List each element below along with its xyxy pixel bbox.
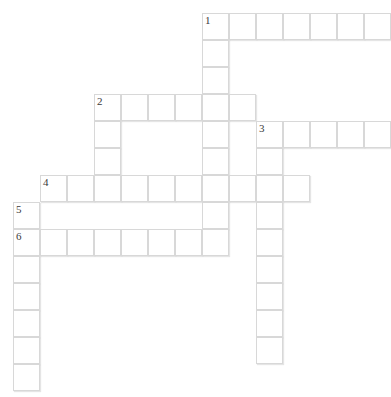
crossword-cell[interactable] (256, 202, 283, 229)
crossword-cell[interactable] (13, 364, 40, 391)
crossword-cell[interactable] (67, 175, 94, 202)
crossword-cell[interactable] (283, 175, 310, 202)
crossword-cell[interactable] (283, 13, 310, 40)
crossword-cell[interactable] (310, 13, 337, 40)
crossword-cell[interactable] (175, 94, 202, 121)
crossword-cell[interactable] (283, 121, 310, 148)
crossword-cell[interactable] (94, 121, 121, 148)
crossword-cell[interactable] (202, 229, 229, 256)
crossword-cell[interactable] (202, 202, 229, 229)
crossword-cell[interactable] (94, 175, 121, 202)
cell-number-5: 5 (16, 203, 22, 216)
crossword-cell[interactable]: 5 (13, 202, 40, 229)
crossword-cell[interactable] (229, 175, 256, 202)
crossword-cell[interactable] (67, 229, 94, 256)
crossword-cell[interactable] (13, 310, 40, 337)
crossword-cell[interactable] (202, 40, 229, 67)
crossword-cell[interactable] (202, 121, 229, 148)
crossword-cell[interactable] (175, 175, 202, 202)
crossword-cell[interactable] (229, 13, 256, 40)
crossword-cell[interactable] (13, 283, 40, 310)
cell-number-3: 3 (259, 122, 265, 135)
crossword-cell[interactable] (148, 94, 175, 121)
cell-number-4: 4 (43, 176, 49, 189)
crossword-cell[interactable] (256, 175, 283, 202)
crossword-cell[interactable] (256, 13, 283, 40)
crossword-cell[interactable] (337, 13, 364, 40)
crossword-cell[interactable] (13, 337, 40, 364)
crossword-cell[interactable] (94, 148, 121, 175)
crossword-cell[interactable] (229, 94, 256, 121)
cell-number-2: 2 (97, 95, 103, 108)
crossword-cell[interactable] (202, 175, 229, 202)
crossword-cell[interactable] (310, 121, 337, 148)
crossword-cell[interactable] (202, 67, 229, 94)
crossword-cell[interactable] (202, 94, 229, 121)
crossword-cell[interactable] (121, 175, 148, 202)
crossword-cell[interactable] (256, 310, 283, 337)
crossword-cell[interactable]: 6 (13, 229, 40, 256)
crossword-cell[interactable] (364, 13, 391, 40)
crossword-cell[interactable] (337, 121, 364, 148)
crossword-cell[interactable] (148, 229, 175, 256)
crossword-cell[interactable] (121, 229, 148, 256)
crossword-cell[interactable] (256, 283, 283, 310)
crossword-cell[interactable] (256, 148, 283, 175)
crossword-cell[interactable] (13, 256, 40, 283)
crossword-cell[interactable] (94, 229, 121, 256)
crossword-cell[interactable] (202, 148, 229, 175)
crossword-cell[interactable] (148, 175, 175, 202)
crossword-cell[interactable] (175, 229, 202, 256)
crossword-cell[interactable] (256, 256, 283, 283)
crossword-cell[interactable] (121, 94, 148, 121)
crossword-cell[interactable]: 3 (256, 121, 283, 148)
crossword-cell[interactable] (364, 121, 391, 148)
crossword-cell[interactable] (256, 337, 283, 364)
crossword-cell[interactable]: 2 (94, 94, 121, 121)
crossword-cell[interactable] (256, 229, 283, 256)
crossword-cell[interactable]: 1 (202, 13, 229, 40)
cell-number-6: 6 (16, 230, 22, 243)
crossword-cell[interactable] (40, 229, 67, 256)
crossword-cell[interactable]: 4 (40, 175, 67, 202)
cell-number-1: 1 (205, 14, 211, 27)
